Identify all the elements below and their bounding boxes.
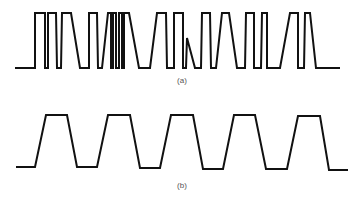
waveform-canvas bbox=[0, 0, 364, 203]
waveform-figure: (a) (b) bbox=[0, 0, 364, 203]
waveform-b bbox=[16, 115, 348, 170]
panel-label-a: (a) bbox=[177, 76, 187, 85]
panel-label-b: (b) bbox=[177, 181, 187, 190]
waveform-a bbox=[15, 13, 340, 68]
